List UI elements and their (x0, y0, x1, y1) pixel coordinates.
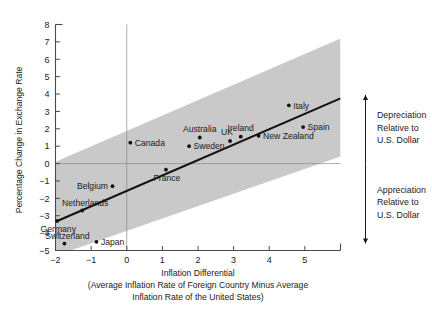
data-point (301, 125, 305, 129)
scatter-plot-svg: −5−4−3−2−1012345678 −2−1012345 CanadaAus… (0, 0, 432, 321)
data-point-label: Spain (308, 122, 330, 132)
data-point-label: France (154, 173, 181, 183)
x-axis-title: Inflation Differential (161, 268, 234, 278)
data-point-label: Belgium (77, 181, 108, 191)
data-point (239, 135, 243, 139)
x-tick-label: 5 (302, 255, 307, 265)
y-tick-label: −3 (39, 211, 49, 221)
data-point (198, 136, 202, 140)
data-point-label: Japan (101, 237, 125, 247)
x-tick-label: 1 (160, 255, 165, 265)
data-point (164, 168, 168, 172)
data-point-label: Sweden (194, 141, 225, 151)
x-tick-label: 4 (267, 255, 272, 265)
data-point-label: Ireland (228, 123, 254, 133)
data-point-label: Australia (183, 124, 217, 134)
x-axis-subtitle-line-1: (Average Inflation Rate of Foreign Count… (88, 280, 309, 290)
x-tick-label: −2 (50, 255, 60, 265)
data-point (128, 141, 132, 145)
y-tick-label: 5 (44, 72, 49, 82)
y-tick-label: 3 (44, 107, 49, 117)
y-tick-label: 7 (44, 37, 49, 47)
y-tick-label: 1 (44, 141, 49, 151)
data-point-label: Switzerland (45, 231, 90, 241)
data-point-label: Italy (293, 101, 309, 111)
y-tick-label: 6 (44, 55, 49, 65)
data-point (287, 103, 291, 107)
data-point (95, 240, 99, 244)
y-tick-label: 2 (44, 124, 49, 134)
y-tick-label: −5 (39, 246, 49, 256)
annotation-appreciation-line-2: Relative to (377, 197, 419, 207)
annotation-depreciation-line-2: Relative to (377, 123, 419, 133)
y-axis-title: Percentage Change in Exchange Rate (14, 66, 24, 213)
data-point (187, 144, 191, 148)
data-point (55, 219, 59, 223)
annotation-depreciation-line-3: U.S. Dollar (377, 135, 420, 145)
data-point-label: Canada (135, 138, 165, 148)
data-point (257, 134, 261, 138)
data-point-label: Netherlands (62, 198, 108, 208)
annotation-depreciation-line-1: Depreciation (377, 110, 426, 120)
x-axis-subtitle-line-2: Inflation Rate of the United States) (132, 292, 264, 302)
x-tick-label: −1 (86, 255, 96, 265)
x-tick-label: 3 (231, 255, 236, 265)
annotation-appreciation-line-3: U.S. Dollar (377, 210, 420, 220)
y-tick-label: 4 (44, 89, 49, 99)
data-point-label: New Zealand (263, 131, 314, 141)
x-tick-label: 2 (195, 255, 200, 265)
x-tick-label: 0 (124, 255, 129, 265)
y-tick-label: −1 (39, 176, 49, 186)
data-point (111, 184, 115, 188)
data-point (228, 139, 232, 143)
data-point (80, 209, 84, 213)
data-point (63, 242, 67, 246)
y-tick-label: 8 (44, 20, 49, 30)
chart-figure: −5−4−3−2−1012345678 −2−1012345 CanadaAus… (0, 0, 432, 321)
annotation-appreciation-line-1: Appreciation (377, 185, 426, 195)
y-tick-label: −2 (39, 194, 49, 204)
y-tick-label: 0 (44, 159, 49, 169)
